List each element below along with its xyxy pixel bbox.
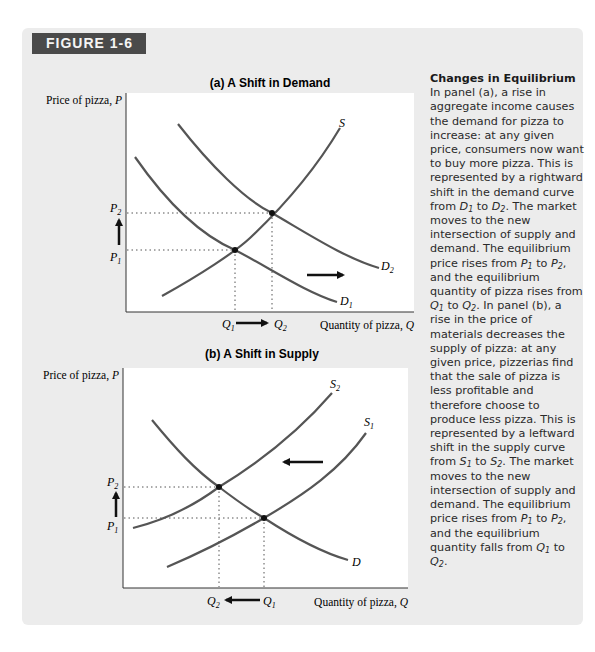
figure-caption: Changes in Equilibrium In panel (a), a r… (430, 72, 585, 569)
equilibrium-point-1 (261, 515, 267, 521)
chart-panel-a: (a) A Shift in Demand Price of pizza, P … (46, 76, 415, 333)
equilibrium-point-2 (216, 484, 222, 490)
panel-b-title: (b) A Shift in Supply (205, 347, 319, 361)
y-axis-label-a: Price of pizza, P (46, 94, 122, 107)
curve-label-s: S (339, 116, 345, 130)
symbol: D1 (460, 200, 474, 213)
equilibrium-point-2 (269, 210, 275, 216)
x-axis-label-b: Quantity of pizza, Q (314, 596, 409, 609)
panel-a-title: (a) A Shift in Demand (210, 76, 330, 90)
chart-panel-b: (b) A Shift in Supply Price of pizza, P … (43, 347, 409, 610)
x-axis-label-a: Quantity of pizza, Q (320, 319, 415, 332)
curve-label-d: D (351, 555, 361, 569)
price-label-p2: P2 (109, 201, 121, 217)
quantity-label-q1: Q1 (263, 594, 276, 610)
quantity-label-q2: Q2 (274, 317, 287, 333)
price-label-p2: P2 (106, 475, 118, 491)
y-axis-label-b: Price of pizza, P (43, 369, 119, 382)
plot-area-a (126, 93, 414, 312)
price-label-p1: P1 (106, 519, 118, 535)
price-label-p1: P1 (109, 250, 121, 266)
caption-title: Changes in Equilibrium (430, 72, 576, 85)
quantity-label-q1: Q1 (222, 317, 235, 333)
quantity-label-q2: Q2 (207, 594, 220, 610)
equilibrium-point-1 (232, 247, 238, 253)
plot-area-b (123, 368, 408, 588)
